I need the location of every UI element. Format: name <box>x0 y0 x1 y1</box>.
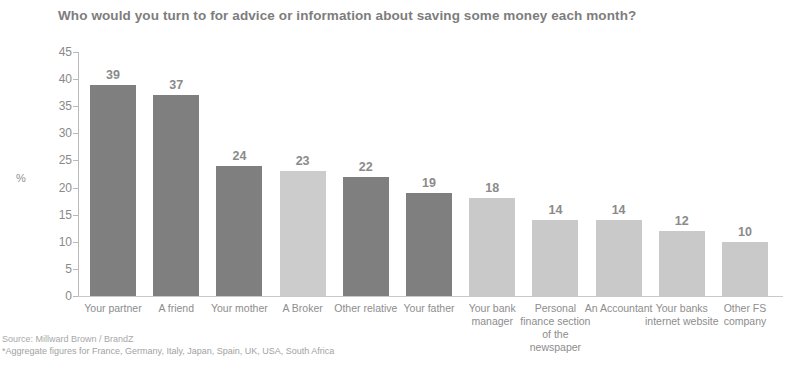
y-axis-tick-25: 25 <box>44 154 72 166</box>
bar-value-label: 19 <box>406 176 452 190</box>
bar-value-label: 14 <box>532 203 578 217</box>
y-axis-tick-mark <box>73 133 78 134</box>
bar[interactable] <box>406 193 452 296</box>
bar[interactable] <box>469 198 515 296</box>
bar-column[interactable]: 10 <box>722 51 768 296</box>
bar[interactable] <box>722 242 768 296</box>
bar-chart-plot-area: % 454035302520151050 3937242322191814141… <box>0 0 800 368</box>
bar-value-label: 23 <box>280 154 326 168</box>
bar-column[interactable]: 14 <box>596 51 642 296</box>
y-axis-line <box>78 52 79 297</box>
bar-value-label: 22 <box>343 160 389 174</box>
y-axis-label: % <box>16 172 26 184</box>
bar-value-label: 37 <box>153 78 199 92</box>
bar-value-label: 24 <box>216 149 262 163</box>
bar[interactable] <box>532 220 578 296</box>
bar-value-label: 10 <box>722 225 768 239</box>
y-axis-tick-10: 10 <box>44 236 72 248</box>
footnote-note: *Aggregate figures for France, Germany, … <box>2 346 334 358</box>
y-axis-tick-0: 0 <box>44 290 72 302</box>
y-axis-tick-mark <box>73 242 78 243</box>
y-axis-tick-mark <box>73 188 78 189</box>
bar-column[interactable]: 14 <box>532 51 578 296</box>
bar-column[interactable]: 24 <box>216 51 262 296</box>
bar[interactable] <box>216 166 262 296</box>
bar-value-label: 39 <box>90 68 136 82</box>
y-axis-tick-mark <box>73 52 78 53</box>
bar[interactable] <box>153 95 199 296</box>
y-axis-tick-mark <box>73 160 78 161</box>
bar-column[interactable]: 23 <box>280 51 326 296</box>
bar-column[interactable]: 12 <box>659 51 705 296</box>
y-axis-tick-35: 35 <box>44 100 72 112</box>
footnote-block: Source: Millward Brown / BrandZ *Aggrega… <box>2 334 334 357</box>
bar-value-label: 18 <box>469 181 515 195</box>
bar-column[interactable]: 39 <box>90 51 136 296</box>
y-axis-tick-5: 5 <box>44 263 72 275</box>
y-axis-tick-mark <box>73 296 78 297</box>
x-axis-category-label: Other FS company <box>708 302 782 328</box>
bar[interactable] <box>596 220 642 296</box>
y-axis-tick-mark <box>73 79 78 80</box>
y-axis-tick-mark <box>73 106 78 107</box>
x-axis-baseline <box>78 296 783 297</box>
bar-value-label: 12 <box>659 214 705 228</box>
y-axis-tick-mark <box>73 269 78 270</box>
y-axis-tick-40: 40 <box>44 73 72 85</box>
bar[interactable] <box>280 171 326 296</box>
footnote-source: Source: Millward Brown / BrandZ <box>2 334 334 346</box>
bar[interactable] <box>90 85 136 296</box>
bar[interactable] <box>659 231 705 296</box>
bar-column[interactable]: 19 <box>406 51 452 296</box>
y-axis-tick-15: 15 <box>44 209 72 221</box>
y-axis-tick-30: 30 <box>44 127 72 139</box>
bar-column[interactable]: 18 <box>469 51 515 296</box>
y-axis-tick-45: 45 <box>44 46 72 58</box>
bar[interactable] <box>343 177 389 296</box>
bar-value-label: 14 <box>596 203 642 217</box>
y-axis-tick-20: 20 <box>44 182 72 194</box>
bar-column[interactable]: 37 <box>153 51 199 296</box>
y-axis-tick-mark <box>73 215 78 216</box>
bar-column[interactable]: 22 <box>343 51 389 296</box>
